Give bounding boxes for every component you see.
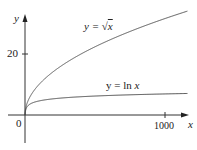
sqrt-label-prefix: y = [84,20,102,32]
ln-label-prefix: y = ln [106,79,135,91]
x-axis-label: x [188,119,193,130]
y-tick-label-20: 20 [7,48,18,59]
x-tick-label-1000: 1000 [154,121,174,131]
x-axis-arrow-icon [181,113,189,118]
y-axis-arrow-icon [23,14,28,22]
ln-curve [25,93,187,115]
sqrt-curve-label: y = √x [84,21,113,32]
ln-label-var: x [135,79,140,91]
ln-curve-label: y = ln x [106,80,139,91]
origin-label: 0 [16,118,22,129]
sqrt-label-var: x [108,20,113,32]
y-axis-label: y [14,13,19,24]
